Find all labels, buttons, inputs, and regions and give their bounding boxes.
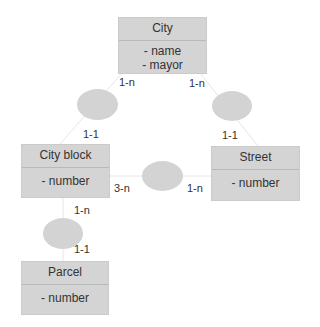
entity-parcel-attr-number: - number <box>22 291 108 305</box>
relationship-cityblock-street <box>142 161 183 191</box>
relationship-city-cityblock <box>77 89 118 120</box>
entity-parcel-name: Parcel <box>22 262 108 285</box>
cardinality-cityblock-to-street: 3-n <box>114 182 130 194</box>
cardinality-street-from-cityblock: 1-n <box>187 182 203 194</box>
cardinality-parcel-from-cityblock: 1-1 <box>74 243 90 255</box>
entity-city-block: City block - number <box>21 144 110 198</box>
entity-city-name: City <box>119 18 206 41</box>
entity-street-name: Street <box>212 147 299 170</box>
entity-city-block-attr-number: - number <box>22 174 109 188</box>
entity-city: City - name - mayor <box>118 17 207 74</box>
cardinality-cityblock-from-city: 1-1 <box>83 128 99 140</box>
cardinality-city-to-cityblock: 1-n <box>119 76 135 88</box>
entity-city-block-name: City block <box>22 145 109 168</box>
cardinality-city-to-street: 1-n <box>189 77 205 89</box>
entity-street: Street - number <box>211 146 300 201</box>
relationship-city-street <box>212 91 252 121</box>
entity-parcel: Parcel - number <box>21 261 109 315</box>
entity-city-attr-mayor: - mayor <box>119 58 206 72</box>
cardinality-cityblock-to-parcel: 1-n <box>74 204 90 216</box>
cardinality-street-from-city: 1-1 <box>222 129 238 141</box>
entity-city-attr-name: - name <box>119 44 206 58</box>
entity-street-attr-number: - number <box>212 176 299 190</box>
